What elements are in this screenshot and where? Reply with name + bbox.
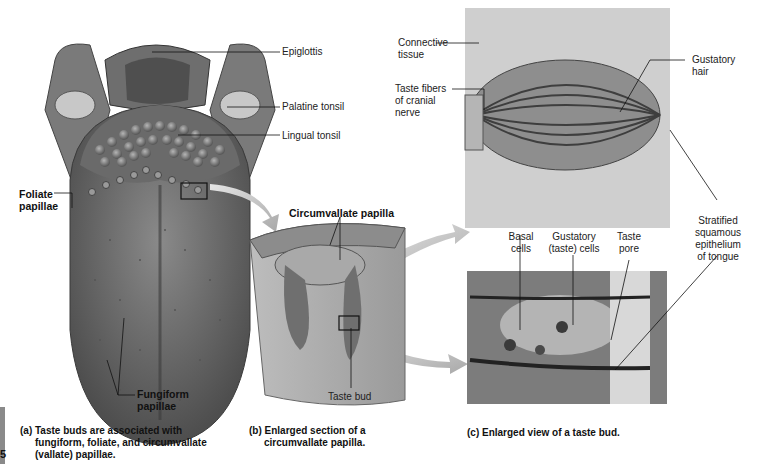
label-connective-tissue-line1: Connective (398, 37, 448, 49)
label-basal-cells-line1: Basal (505, 231, 537, 243)
caption-c-line1: (c) Enlarged view of a taste bud. (467, 427, 620, 439)
label-taste-pore-line1: Taste (612, 231, 646, 243)
caption-a-line3: (vallate) papillae. (20, 449, 207, 461)
caption-b-line1: (b) Enlarged section of a (249, 425, 366, 437)
label-taste-fibers-line2: of cranial (395, 95, 436, 107)
label-stratified-epithelium-line1: Stratified (690, 215, 746, 227)
tongue-illustration (45, 44, 275, 445)
caption-panel-a: (a) Taste buds are associated with fungi… (20, 425, 207, 461)
label-taste-fibers-line3: nerve (395, 107, 420, 119)
label-taste-fibers-line1: Taste fibers (395, 83, 446, 95)
label-foliate-papillae-line2: papillae (19, 200, 58, 212)
label-stratified-epithelium-line2: squamous (690, 227, 746, 239)
label-circumvallate-papilla: Circumvallate papilla (289, 207, 394, 219)
label-palatine-tonsil: Palatine tonsil (282, 101, 344, 113)
taste-bud-micrograph (467, 271, 667, 404)
label-gustatory-hair-line1: Gustatory (692, 54, 735, 66)
label-stratified-epithelium-line3: epithelium (690, 239, 746, 251)
label-gustatory-cells-line1: Gustatory (544, 231, 604, 243)
label-connective-tissue-line2: tissue (398, 49, 424, 61)
taste-bud-drawing (465, 8, 670, 228)
label-stratified-epithelium-line4: of tongue (690, 251, 746, 263)
label-taste-pore-line2: pore (612, 243, 646, 255)
circumvallate-block-illustration (250, 224, 405, 405)
page-number-fragment: 5 (0, 448, 6, 460)
caption-panel-b: (b) Enlarged section of a circumvallate … (249, 425, 366, 449)
label-basal-cells-line2: cells (505, 243, 537, 255)
caption-a-line1: (a) Taste buds are associated with (20, 425, 207, 437)
label-taste-bud: Taste bud (328, 391, 371, 403)
caption-a-line2: fungiform, foliate, and circumvallate (20, 437, 207, 449)
caption-b-line2: circumvallate papilla. (249, 437, 366, 449)
label-fungiform-papillae-line1: Fungiform (137, 388, 189, 400)
label-gustatory-cells-line2: (taste) cells (544, 243, 604, 255)
label-lingual-tonsil: Lingual tonsil (282, 130, 340, 142)
label-epiglottis: Epiglottis (282, 46, 323, 58)
label-foliate-papillae-line1: Foliate (19, 188, 53, 200)
label-gustatory-hair-line2: hair (692, 66, 709, 78)
label-fungiform-papillae-line2: papillae (137, 400, 176, 412)
caption-panel-c: (c) Enlarged view of a taste bud. (467, 427, 620, 439)
